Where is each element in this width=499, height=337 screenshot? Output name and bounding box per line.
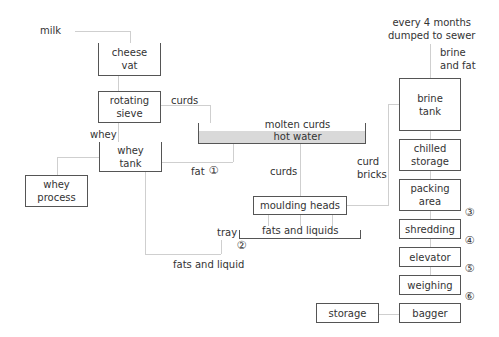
whey-tank-line1: whey bbox=[117, 145, 144, 156]
whey-process-line bbox=[57, 157, 100, 158]
marker-3: ③ bbox=[464, 208, 475, 219]
cheese-vat-line2: vat bbox=[122, 60, 138, 71]
storage-label: storage bbox=[329, 307, 367, 320]
rotating-sieve: rotatingsieve bbox=[98, 91, 161, 123]
curd-bricks-h bbox=[346, 205, 389, 206]
weighing: weighing bbox=[399, 275, 461, 295]
packing-area-line1: packing bbox=[410, 183, 449, 194]
whey-tank: wheytank bbox=[99, 142, 162, 172]
storage-bagger-line bbox=[379, 314, 401, 315]
whey-process-line2: process bbox=[37, 192, 75, 203]
chilled-storage-line1: chilled bbox=[414, 143, 447, 154]
whey-label: whey bbox=[90, 128, 117, 141]
fats-and-liquid-label: fats and liquid bbox=[173, 258, 244, 271]
tray-label: tray bbox=[217, 226, 237, 239]
packing-area: packingarea bbox=[399, 179, 461, 211]
fat-label: fat bbox=[191, 165, 205, 178]
curd-bricks-label: curdbricks bbox=[357, 155, 387, 181]
fat-line bbox=[161, 162, 233, 163]
brine-tank-line2: tank bbox=[419, 106, 441, 117]
moulding-heads-label: moulding heads bbox=[260, 199, 340, 212]
brine-top-line bbox=[430, 44, 431, 78]
chilled-storage-line2: storage bbox=[411, 156, 449, 167]
fat-up-line bbox=[233, 144, 234, 162]
curd-bricks-line1: curd bbox=[357, 156, 379, 167]
chilled-storage: chilledstorage bbox=[399, 139, 461, 171]
weighing-label: weighing bbox=[407, 279, 452, 292]
tray-content-label: fats and liquids bbox=[262, 224, 339, 237]
packing-area-line2: area bbox=[419, 196, 441, 207]
brine-tank: brinetank bbox=[399, 78, 461, 131]
milk-label: milk bbox=[40, 24, 61, 37]
fats-liquid-line bbox=[145, 254, 221, 255]
marker-1: ① bbox=[208, 166, 219, 177]
storage: storage bbox=[316, 303, 379, 323]
cheese-vat-line1: cheese bbox=[112, 47, 148, 58]
marker-4: ④ bbox=[464, 236, 475, 247]
brine-dump-label: every 4 monthsdumped to sewer bbox=[388, 16, 475, 42]
whey-process: wheyprocess bbox=[25, 175, 88, 207]
brine-dump-line1: every 4 months bbox=[392, 17, 471, 28]
curd-bricks-v bbox=[388, 104, 389, 205]
whey-process-line1: whey bbox=[43, 179, 70, 190]
marker-5: ⑤ bbox=[464, 264, 475, 275]
rotating-sieve-line1: rotating bbox=[110, 95, 149, 106]
whey-tank-line2: tank bbox=[119, 158, 141, 169]
curds-from-sieve-label: curds bbox=[171, 94, 198, 107]
brine-and-fat-line1: brine bbox=[440, 47, 466, 58]
bagger-label: bagger bbox=[412, 307, 447, 320]
milk-drop-line bbox=[130, 31, 131, 43]
curds-down-line bbox=[300, 144, 301, 196]
brine-dump-line2: dumped to sewer bbox=[388, 30, 475, 41]
elevator: elevator bbox=[399, 247, 461, 267]
shredding-label: shredding bbox=[405, 223, 455, 236]
cheese-vat: cheesevat bbox=[98, 43, 161, 76]
moulding-heads: moulding heads bbox=[253, 196, 347, 215]
whey-process-drop bbox=[57, 157, 58, 175]
marker-6: ⑥ bbox=[464, 292, 475, 303]
whey-to-fats-line bbox=[145, 171, 146, 254]
elevator-label: elevator bbox=[409, 251, 450, 264]
bagger: bagger bbox=[399, 303, 461, 323]
milk-line bbox=[75, 31, 131, 32]
rotating-sieve-line2: sieve bbox=[116, 108, 142, 119]
curds-down-label: curds bbox=[270, 165, 297, 178]
hot-water-label: hot water bbox=[240, 130, 355, 143]
marker-2: ② bbox=[236, 241, 247, 252]
tray-drop-line bbox=[221, 240, 222, 254]
curd-bricks-line2: bricks bbox=[357, 169, 387, 180]
brine-and-fat-label: brineand fat bbox=[440, 46, 476, 72]
curds-drop-line bbox=[210, 105, 211, 123]
brine-tank-line1: brine bbox=[417, 93, 443, 104]
brine-and-fat-line2: and fat bbox=[440, 60, 476, 71]
shredding: shredding bbox=[399, 219, 461, 239]
